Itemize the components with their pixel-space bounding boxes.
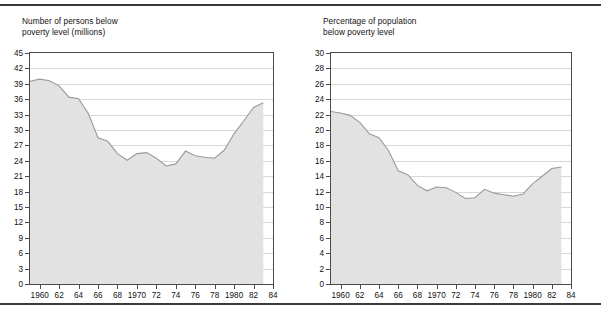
x-axis-tick bbox=[59, 285, 60, 289]
x-axis-tick bbox=[117, 285, 118, 289]
y-axis-tick bbox=[25, 84, 29, 85]
y-axis-label: 16 bbox=[315, 156, 324, 165]
y-axis-label: 27 bbox=[14, 141, 23, 150]
x-axis-label: 74 bbox=[470, 291, 479, 300]
chart-title-persons: Number of persons below poverty level (m… bbox=[22, 16, 118, 37]
y-axis-label: 42 bbox=[14, 64, 23, 73]
x-axis-label: 64 bbox=[74, 291, 83, 300]
x-axis-label: 1960 bbox=[331, 291, 349, 300]
bottom-horizontal-rule bbox=[0, 303, 601, 305]
area-series bbox=[331, 53, 571, 284]
x-axis-tick bbox=[513, 285, 514, 289]
x-axis-label: 72 bbox=[152, 291, 161, 300]
y-axis-tick bbox=[25, 99, 29, 100]
x-axis-tick bbox=[273, 285, 274, 289]
y-axis-label: 24 bbox=[315, 95, 324, 104]
y-axis-tick bbox=[326, 161, 330, 162]
x-axis-tick bbox=[398, 285, 399, 289]
y-axis-tick bbox=[25, 115, 29, 116]
y-axis-label: 26 bbox=[315, 79, 324, 88]
x-axis-tick bbox=[360, 285, 361, 289]
y-axis-label: 3 bbox=[18, 264, 23, 273]
y-axis-tick bbox=[326, 284, 330, 285]
x-axis-tick bbox=[40, 285, 41, 289]
y-axis-tick bbox=[326, 53, 330, 54]
x-axis-label: 1960 bbox=[31, 291, 49, 300]
y-axis-label: 28 bbox=[315, 64, 324, 73]
y-axis-label: 24 bbox=[14, 156, 23, 165]
x-axis-label: 84 bbox=[268, 291, 277, 300]
x-axis-tick bbox=[341, 285, 342, 289]
x-axis-label: 1970 bbox=[427, 291, 445, 300]
y-axis-label: 4 bbox=[319, 249, 324, 258]
x-axis-tick bbox=[156, 285, 157, 289]
y-axis-tick bbox=[326, 222, 330, 223]
x-axis-tick bbox=[475, 285, 476, 289]
x-axis-tick bbox=[417, 285, 418, 289]
y-axis-label: 15 bbox=[14, 203, 23, 212]
x-axis-label: 74 bbox=[171, 291, 180, 300]
y-axis-tick bbox=[326, 68, 330, 69]
y-axis-tick bbox=[326, 145, 330, 146]
x-axis-tick bbox=[195, 285, 196, 289]
y-axis-label: 21 bbox=[14, 172, 23, 181]
plot-frame-right bbox=[273, 52, 274, 285]
x-axis-tick bbox=[437, 285, 438, 289]
y-axis-label: 0 bbox=[18, 280, 23, 289]
y-axis-tick bbox=[25, 145, 29, 146]
x-axis-label: 68 bbox=[113, 291, 122, 300]
x-axis-tick bbox=[533, 285, 534, 289]
y-axis-tick bbox=[326, 253, 330, 254]
x-axis-label: 76 bbox=[490, 291, 499, 300]
y-axis-label: 2 bbox=[319, 264, 324, 273]
x-axis-label: 1980 bbox=[523, 291, 541, 300]
x-axis-label: 66 bbox=[394, 291, 403, 300]
plot-frame-bottom bbox=[29, 284, 274, 285]
x-axis-label: 66 bbox=[93, 291, 102, 300]
y-axis-tick bbox=[326, 99, 330, 100]
x-axis-label: 78 bbox=[210, 291, 219, 300]
x-axis-label: 76 bbox=[191, 291, 200, 300]
y-axis-tick bbox=[25, 176, 29, 177]
y-axis-tick bbox=[25, 269, 29, 270]
x-axis-label: 72 bbox=[451, 291, 460, 300]
x-axis-tick bbox=[552, 285, 553, 289]
y-axis-label: 36 bbox=[14, 95, 23, 104]
x-axis-tick bbox=[379, 285, 380, 289]
y-axis-tick bbox=[25, 238, 29, 239]
y-axis-label: 0 bbox=[319, 280, 324, 289]
y-axis-tick bbox=[25, 161, 29, 162]
x-axis-tick bbox=[494, 285, 495, 289]
y-axis-tick bbox=[326, 84, 330, 85]
y-axis-label: 14 bbox=[315, 172, 324, 181]
y-axis-label: 12 bbox=[14, 218, 23, 227]
plot-frame-bottom bbox=[330, 284, 572, 285]
x-axis-label: 1970 bbox=[128, 291, 146, 300]
y-axis-label: 6 bbox=[18, 249, 23, 258]
y-axis-tick bbox=[25, 130, 29, 131]
x-axis-tick bbox=[571, 285, 572, 289]
y-axis-label: 12 bbox=[315, 187, 324, 196]
y-axis-tick bbox=[326, 192, 330, 193]
y-axis-label: 10 bbox=[315, 203, 324, 212]
x-axis-tick bbox=[215, 285, 216, 289]
x-axis-tick bbox=[137, 285, 138, 289]
x-axis-label: 84 bbox=[566, 291, 575, 300]
y-axis-label: 18 bbox=[315, 141, 324, 150]
y-axis-tick bbox=[326, 269, 330, 270]
x-axis-label: 82 bbox=[249, 291, 258, 300]
y-axis-tick bbox=[326, 238, 330, 239]
y-axis-label: 45 bbox=[14, 49, 23, 58]
y-axis-tick bbox=[25, 192, 29, 193]
y-axis-tick bbox=[25, 207, 29, 208]
y-axis-tick bbox=[326, 130, 330, 131]
plot-area-persons: 0369121518212427303336394245196062646668… bbox=[29, 52, 274, 285]
x-axis-tick bbox=[254, 285, 255, 289]
x-axis-tick bbox=[79, 285, 80, 289]
x-axis-label: 62 bbox=[355, 291, 364, 300]
y-axis-label: 9 bbox=[18, 233, 23, 242]
x-axis-label: 1980 bbox=[225, 291, 243, 300]
x-axis-tick bbox=[98, 285, 99, 289]
x-axis-tick bbox=[176, 285, 177, 289]
y-axis-tick bbox=[25, 222, 29, 223]
